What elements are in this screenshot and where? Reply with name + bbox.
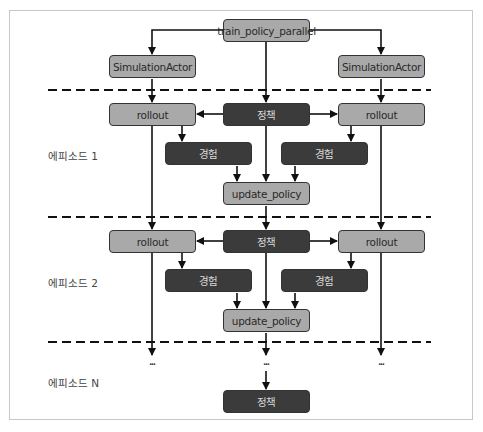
update-policy-node: update_policy xyxy=(223,182,310,205)
experience-node-left: 경험 xyxy=(165,142,252,165)
rollout-node-right: rollout xyxy=(338,230,425,253)
policy-node: 정책 xyxy=(223,103,310,126)
rollout-node-left: rollout xyxy=(109,230,196,253)
episode-1-label: 에피소드 1 xyxy=(48,148,98,163)
experience-node-left: 경험 xyxy=(165,269,252,292)
experience-node-right: 경험 xyxy=(281,142,368,165)
continuation-dots-right: ... xyxy=(378,356,383,367)
simulation-actor-node-right: SimulationActor xyxy=(338,55,425,78)
episode-2-label: 에피소드 2 xyxy=(48,275,98,290)
final-policy-node: 정책 xyxy=(223,390,310,413)
update-policy-node: update_policy xyxy=(223,309,310,332)
rollout-node-right: rollout xyxy=(338,103,425,126)
continuation-dots-center: ... xyxy=(263,356,268,367)
experience-node-right: 경험 xyxy=(281,269,368,292)
train-policy-parallel-node: train_policy_parallel xyxy=(223,19,310,42)
episode-n-label: 에피소드 N xyxy=(48,375,99,390)
simulation-actor-node-left: SimulationActor xyxy=(109,55,196,78)
continuation-dots-left: ... xyxy=(149,356,154,367)
policy-node: 정책 xyxy=(223,230,310,253)
rollout-node-left: rollout xyxy=(109,103,196,126)
